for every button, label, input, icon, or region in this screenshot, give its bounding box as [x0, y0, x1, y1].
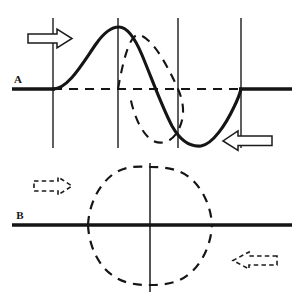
figure-canvas: A B: [0, 0, 303, 303]
arrow-left-solid: [223, 131, 272, 151]
panel-b-label: B: [16, 209, 24, 221]
panel-a: A: [12, 18, 292, 151]
panel-a-label: A: [14, 73, 22, 85]
arrow-right-dashed: [34, 177, 72, 195]
incident-wave-solid: [53, 27, 241, 146]
panel-b: B: [12, 163, 292, 292]
arrow-right-solid: [28, 29, 72, 48]
wave-diagram-figure: A B: [0, 0, 303, 303]
panel-a-gridlines: [53, 18, 241, 148]
arrow-left-dashed: [233, 252, 277, 269]
